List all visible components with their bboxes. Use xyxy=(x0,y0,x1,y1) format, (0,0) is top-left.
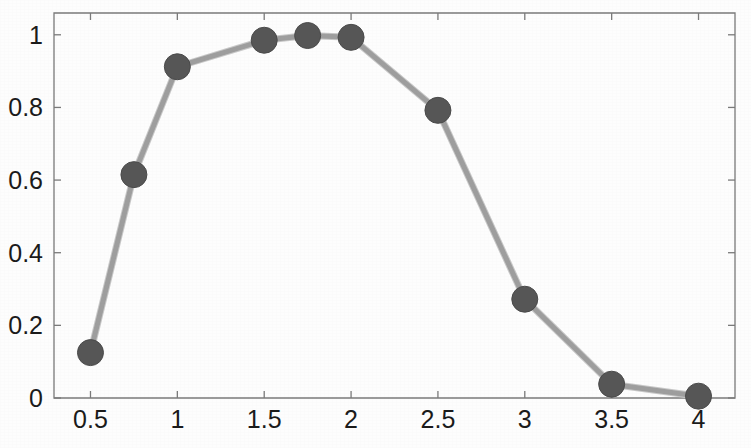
data-point-marker xyxy=(295,23,321,49)
y-axis-tick-labels: 00.20.40.60.81 xyxy=(8,21,43,412)
y-tick-label: 0.4 xyxy=(8,239,43,267)
x-tick-label: 1 xyxy=(170,405,184,433)
series-line-halo xyxy=(90,36,698,397)
data-point-marker xyxy=(512,286,538,312)
series-line xyxy=(90,36,698,397)
data-series xyxy=(90,36,698,397)
data-point-marker xyxy=(599,371,625,397)
data-point-marker xyxy=(425,97,451,123)
data-point-marker xyxy=(251,27,277,53)
y-tick-label: 1 xyxy=(29,21,43,49)
y-tick-label: 0.2 xyxy=(8,311,43,339)
y-tick-label: 0.8 xyxy=(8,93,43,121)
line-chart: 0.511.522.533.54 00.20.40.60.81 xyxy=(0,0,751,448)
x-tick-label: 1.5 xyxy=(247,405,282,433)
x-tick-label: 3.5 xyxy=(594,405,629,433)
x-tick-label: 2 xyxy=(344,405,358,433)
data-point-marker xyxy=(121,162,147,188)
x-tick-label: 3 xyxy=(518,405,532,433)
data-point-marker xyxy=(686,383,712,409)
x-axis-tick-labels: 0.511.522.533.54 xyxy=(73,405,705,433)
x-tick-label: 0.5 xyxy=(73,405,108,433)
x-tick-label: 2.5 xyxy=(421,405,456,433)
y-tick-label: 0.6 xyxy=(8,166,43,194)
data-point-marker xyxy=(77,340,103,366)
data-point-marker xyxy=(338,24,364,50)
data-point-marker xyxy=(164,54,190,80)
y-tick-label: 0 xyxy=(29,384,43,412)
chart-figure: 0.511.522.533.54 00.20.40.60.81 xyxy=(0,0,751,448)
